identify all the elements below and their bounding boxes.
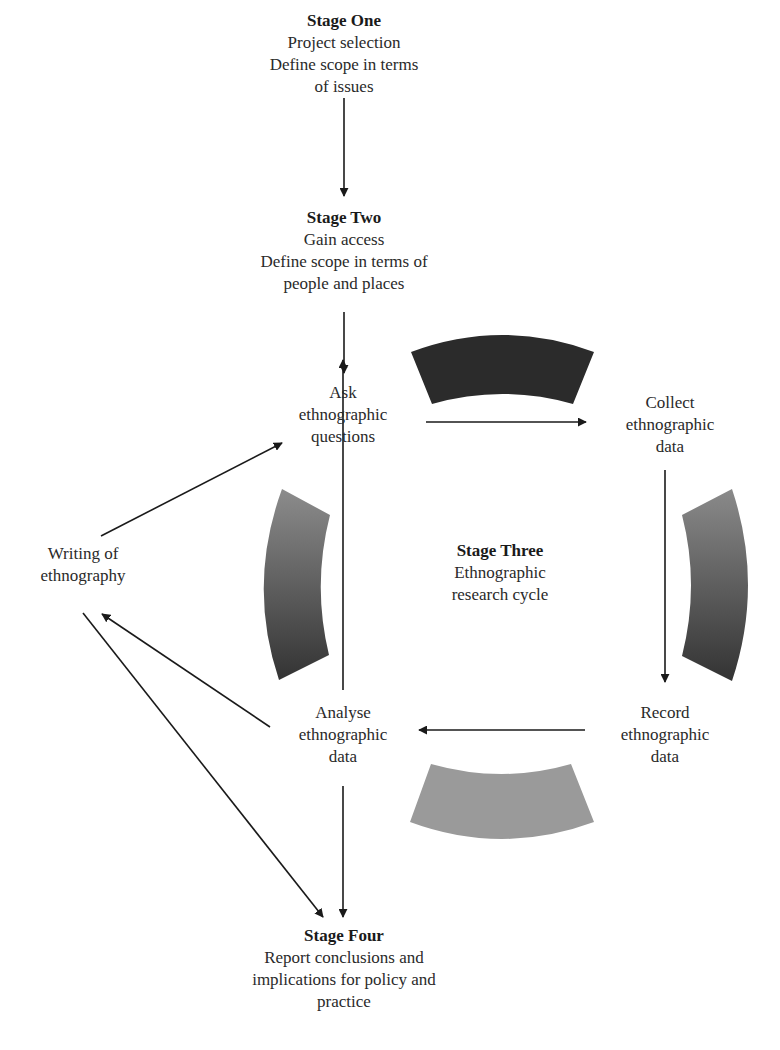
writing-line-2: ethnography [13,565,153,587]
cycle-arc-left [264,489,330,680]
writing-of-ethnography-node: Writing of ethnography [13,543,153,587]
arrow-analyse-to-writing [102,614,270,727]
stage-two-line-2: Define scope in terms of [214,251,474,273]
stage-two-line-3: people and places [214,273,474,295]
collect-ethnographic-data-node: Collect ethnographic data [600,392,740,458]
analyse-line-2: ethnographic [273,724,413,746]
stage-three-line-1: Ethnographic [425,562,575,584]
stage-four-title: Stage Four [204,925,484,947]
collect-line-3: data [600,436,740,458]
stage-one-line-1: Project selection [214,32,474,54]
diagram-canvas [0,0,780,1050]
stage-one-node: Stage One Project selection Define scope… [214,10,474,98]
ask-line-2: ethnographic [273,404,413,426]
stage-two-title: Stage Two [214,207,474,229]
record-ethnographic-data-node: Record ethnographic data [595,702,735,768]
stage-two-node: Stage Two Gain access Define scope in te… [214,207,474,295]
analyse-line-1: Analyse [273,702,413,724]
stage-four-line-1: Report conclusions and [204,947,484,969]
cycle-arc-right [682,489,748,681]
writing-line-1: Writing of [13,543,153,565]
ask-line-1: Ask [273,382,413,404]
collect-line-1: Collect [600,392,740,414]
ask-ethnographic-questions-node: Ask ethnographic questions [273,382,413,448]
ask-line-3: questions [273,426,413,448]
analyse-line-3: data [273,746,413,768]
analyse-ethnographic-data-node: Analyse ethnographic data [273,702,413,768]
cycle-arc-bottom [410,764,594,839]
cycle-arc-top [411,335,594,404]
collect-line-2: ethnographic [600,414,740,436]
arrow-writing-to-ask [101,443,282,536]
stage-three-line-2: research cycle [425,584,575,606]
stage-four-node: Stage Four Report conclusions and implic… [204,925,484,1013]
stage-four-line-2: implications for policy and [204,969,484,991]
record-line-3: data [595,746,735,768]
record-line-2: ethnographic [595,724,735,746]
stage-three-title: Stage Three [425,540,575,562]
record-line-1: Record [595,702,735,724]
stage-three-node: Stage Three Ethnographic research cycle [425,540,575,606]
stage-two-line-1: Gain access [214,229,474,251]
stage-one-line-3: of issues [214,76,474,98]
stage-one-title: Stage One [214,10,474,32]
stage-four-line-3: practice [204,991,484,1013]
stage-one-line-2: Define scope in terms [214,54,474,76]
